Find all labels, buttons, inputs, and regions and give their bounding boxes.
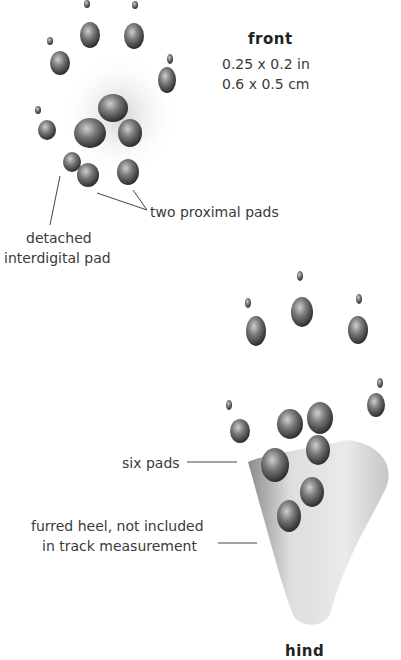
proximal-pads-label: two proximal pads [150, 203, 279, 221]
heel-label-2: in track measurement [42, 537, 197, 555]
front-size-in: 0.25 x 0.2 in [222, 55, 310, 73]
hind-title: hind [285, 642, 324, 660]
front-size-cm: 0.6 x 0.5 cm [222, 75, 310, 93]
front-track-icon [35, 0, 178, 187]
front-title: front [248, 30, 293, 48]
detached-label-1: detached [26, 229, 92, 247]
detached-label-2: interdigital pad [4, 249, 111, 267]
heel-label-1: furred heel, not included [31, 517, 204, 535]
hind-track-icon [226, 271, 389, 625]
six-pads-label: six pads [122, 454, 180, 472]
